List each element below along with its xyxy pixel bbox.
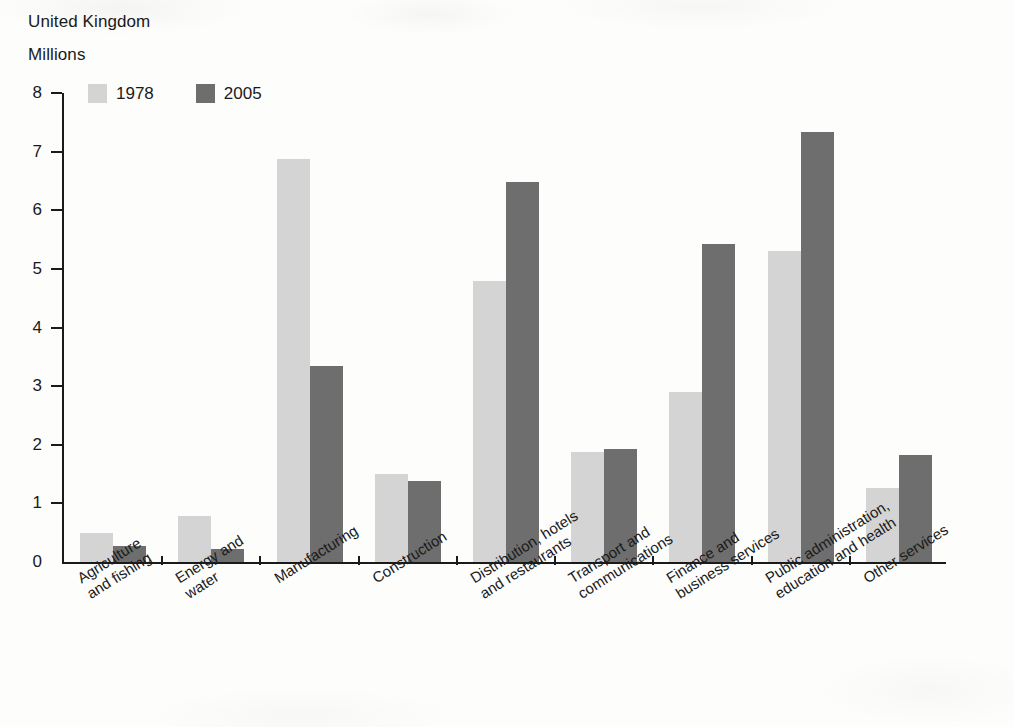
bar-series-layer <box>0 0 1014 727</box>
bar-2005 <box>506 182 539 562</box>
bar-1978 <box>375 474 408 562</box>
chart-plot-area: 876543210 19782005 Agriculture and fishi… <box>0 0 1014 727</box>
bar-1978 <box>473 281 506 562</box>
bar-1978 <box>669 392 702 562</box>
bar-2005 <box>702 244 735 562</box>
bar-1978 <box>277 159 310 562</box>
bar-1978 <box>768 251 801 562</box>
bar-2005 <box>801 132 834 562</box>
